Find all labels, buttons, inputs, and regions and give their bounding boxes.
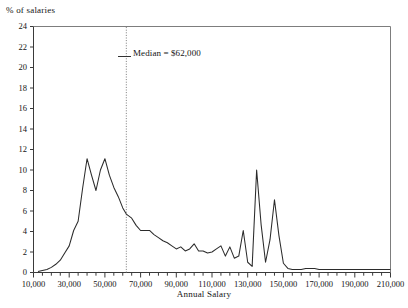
- y-tick-label: 8: [2, 185, 27, 195]
- x-tick-label: 210,000: [368, 279, 408, 289]
- x-axis-title: Annual Salary: [0, 289, 408, 299]
- y-tick-label: 0: [2, 267, 27, 277]
- y-tick-label: 20: [2, 62, 27, 72]
- y-tick-label: 14: [2, 124, 27, 134]
- salary-distribution-line: [38, 159, 391, 272]
- y-tick-label: 18: [2, 83, 27, 93]
- axis-ticks: [30, 27, 391, 278]
- y-tick-label: 4: [2, 226, 27, 236]
- y-tick-label: 2: [2, 247, 27, 257]
- salary-distribution-chart: % of salaries Median = $62,000 024681012…: [0, 0, 408, 308]
- y-tick-label: 24: [2, 21, 27, 31]
- median-legend-dash: [118, 56, 131, 57]
- median-annotation-label: Median = $62,000: [133, 48, 201, 58]
- y-tick-label: 6: [2, 206, 27, 216]
- y-tick-label: 12: [2, 144, 27, 154]
- y-tick-label: 22: [2, 42, 27, 52]
- axes-group: [34, 27, 391, 273]
- y-tick-label: 10: [2, 165, 27, 175]
- y-tick-label: 16: [2, 103, 27, 113]
- chart-canvas: [0, 0, 408, 308]
